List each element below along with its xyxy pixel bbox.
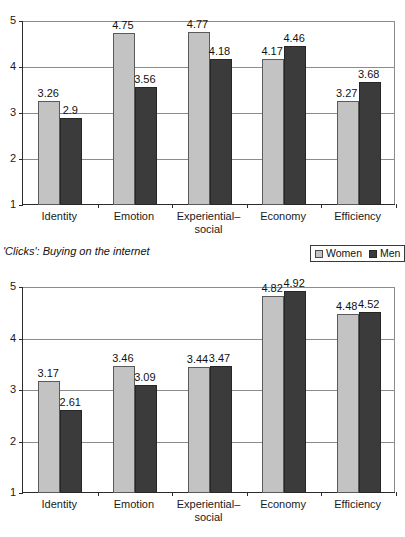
y-axis-tick-mark (19, 390, 23, 391)
bar-women (262, 59, 284, 205)
gridline (23, 287, 395, 288)
x-axis-category-label: Experiential– social (171, 498, 246, 523)
bar-men (284, 46, 306, 205)
y-axis-tick-label: 5 (0, 281, 16, 292)
x-axis-tick-mark (396, 492, 397, 496)
bar-value-label: 4.17 (256, 46, 288, 57)
bar-men (359, 312, 381, 493)
x-axis-tick-mark (98, 492, 99, 496)
x-axis-tick-mark (172, 492, 173, 496)
x-axis-category-label: Identity (22, 210, 97, 223)
bar-women (113, 33, 135, 206)
bar-men (135, 385, 157, 493)
x-axis-category-label: Efficiency (320, 498, 395, 511)
chart-top: 123453.262.9Identity4.753.56Emotion4.774… (0, 0, 405, 240)
x-axis-tick-mark (321, 492, 322, 496)
bar-women (188, 32, 210, 205)
bar-value-label: 3.09 (129, 372, 161, 383)
bar-women (188, 367, 210, 493)
bar-women (337, 314, 359, 493)
men-swatch-icon (369, 250, 377, 258)
x-axis-category-label: Emotion (97, 210, 172, 223)
y-axis-tick-label: 2 (0, 153, 16, 164)
chart-bottom: 123453.172.61Identity3.463.09Emotion3.44… (0, 266, 405, 537)
y-axis-tick-label: 5 (0, 15, 16, 26)
y-axis-tick-label: 4 (0, 61, 16, 72)
y-axis-tick-mark (19, 442, 23, 443)
bar-value-label: 4.52 (353, 299, 385, 310)
bar-value-label: 2.61 (54, 397, 86, 408)
y-axis-tick-mark (19, 21, 23, 22)
x-axis-tick-mark (247, 204, 248, 208)
y-axis-tick-mark (19, 287, 23, 288)
legend-label-men: Men (380, 248, 400, 259)
bar-value-label: 3.46 (107, 353, 139, 364)
y-axis-tick-mark (19, 493, 23, 494)
x-axis-tick-mark (321, 204, 322, 208)
y-axis-tick-label: 2 (0, 436, 16, 447)
y-axis-tick-mark (19, 113, 23, 114)
bar-men (60, 410, 82, 493)
x-axis-category-label: Identity (22, 498, 97, 511)
bar-value-label: 3.27 (331, 88, 363, 99)
bar-value-label: 3.47 (204, 353, 236, 364)
y-axis-tick-mark (19, 205, 23, 206)
bar-women (113, 366, 135, 493)
x-axis-category-label: Economy (246, 498, 321, 511)
plot-area-bottom (22, 287, 395, 493)
legend-entry-men: Men (369, 248, 400, 259)
x-axis-category-label: Economy (246, 210, 321, 223)
bar-value-label: 3.68 (353, 69, 385, 80)
women-swatch-icon (315, 250, 323, 258)
legend-entry-women: Women (315, 248, 362, 259)
bar-men (60, 118, 82, 205)
bar-men (135, 87, 157, 205)
bar-men (210, 59, 232, 205)
bar-value-label: 4.77 (182, 19, 214, 30)
y-axis-tick-label: 1 (0, 199, 16, 210)
bar-men (359, 82, 381, 205)
bar-value-label: 4.46 (278, 33, 310, 44)
bar-women (337, 101, 359, 205)
x-axis-tick-mark (98, 204, 99, 208)
bar-women (38, 101, 60, 205)
y-axis-tick-label: 3 (0, 107, 16, 118)
bar-men (284, 291, 306, 493)
y-axis-tick-label: 4 (0, 333, 16, 344)
legend: Women Men (310, 245, 405, 262)
bar-men (210, 366, 232, 493)
y-axis-tick-mark (19, 339, 23, 340)
x-axis-category-label: Experiential– social (171, 210, 246, 235)
y-axis-tick-mark (19, 159, 23, 160)
legend-label-women: Women (326, 248, 362, 259)
x-axis-tick-mark (396, 204, 397, 208)
x-axis-category-label: Emotion (97, 498, 172, 511)
bar-women (262, 296, 284, 493)
y-axis-tick-label: 3 (0, 384, 16, 395)
bar-value-label: 4.18 (204, 46, 236, 57)
bar-value-label: 3.56 (129, 74, 161, 85)
y-axis-tick-mark (19, 67, 23, 68)
x-axis-tick-mark (172, 204, 173, 208)
y-axis-tick-label: 1 (0, 487, 16, 498)
bar-value-label: 4.92 (278, 278, 310, 289)
bar-value-label: 3.17 (32, 368, 64, 379)
bar-value-label: 3.26 (32, 88, 64, 99)
bar-value-label: 4.75 (107, 20, 139, 31)
x-axis-category-label: Efficiency (320, 210, 395, 223)
chart-caption: 'Clicks': Buying on the internet (3, 245, 150, 257)
bar-value-label: 2.9 (54, 105, 86, 116)
x-axis-tick-mark (247, 492, 248, 496)
